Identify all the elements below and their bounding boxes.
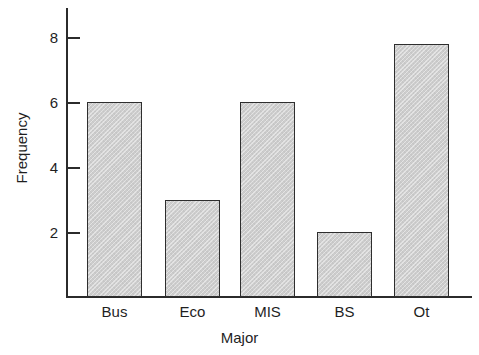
bar-ot [394, 44, 449, 298]
y-tick-mark-2 [68, 232, 80, 234]
x-tick-label-bs: BS [317, 303, 372, 321]
y-tick-label-4: 4 [30, 160, 58, 175]
y-tick-mark-6 [68, 102, 80, 104]
x-axis-title: Major [0, 329, 479, 347]
bar-bs [317, 232, 372, 297]
y-tick-label-4-wrap: 4 [30, 160, 58, 175]
x-tick-label-eco: Eco [165, 303, 220, 321]
bar-chart: 8 6 4 2 Bus Eco MIS BS Ot Major Frequenc… [0, 0, 479, 355]
y-tick-mark-8 [68, 37, 80, 39]
y-tick-label-8: 8 [30, 30, 58, 45]
y-tick-label-6: 6 [30, 95, 58, 110]
y-tick-label-6-wrap: 6 [30, 95, 58, 110]
bar-eco [165, 200, 220, 298]
y-tick-mark-4 [68, 167, 80, 169]
bar-bus [87, 102, 142, 297]
x-tick-label-mis: MIS [240, 303, 295, 321]
x-tick-label-ot: Ot [394, 303, 449, 321]
y-tick-label-8-wrap: 8 [30, 30, 58, 45]
bar-mis [240, 102, 295, 297]
y-axis-line [66, 8, 68, 298]
y-axis-title: Frequency [13, 98, 31, 198]
x-tick-label-bus: Bus [87, 303, 142, 321]
y-tick-label-2: 2 [30, 225, 58, 240]
y-tick-label-2-wrap: 2 [30, 225, 58, 240]
